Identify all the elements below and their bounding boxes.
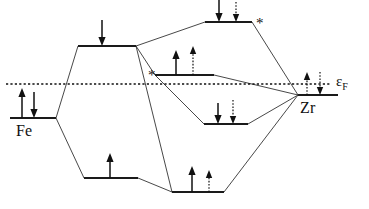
- corr-center-to-mid-right: [155, 75, 204, 124]
- antibonding-star-center: *: [148, 67, 156, 83]
- electron-arrows-lower-left: [106, 153, 113, 178]
- spin-up-arrow-dotted: [206, 170, 212, 192]
- corr-fe-to-lower-left: [56, 118, 84, 178]
- corr-lower-right-to-zr: [224, 95, 298, 192]
- spin-down-arrow-solid: [215, 0, 222, 22]
- electron-arrows-upper-left: [98, 20, 105, 46]
- electron-arrows-center: *: [148, 46, 196, 83]
- antibonding-star-upper-right: *: [256, 15, 264, 31]
- spin-up-arrow-solid: [188, 166, 195, 192]
- spin-down-arrow-solid: [30, 92, 37, 118]
- spin-down-arrow-solid: [98, 20, 105, 46]
- corr-fe-to-upper-left: [56, 46, 78, 118]
- spin-up-arrow-dotted: [190, 46, 196, 75]
- spin-up-arrow-solid: [172, 50, 179, 75]
- spin-up-arrow-solid: [106, 153, 113, 178]
- correlation-lines: [56, 22, 298, 192]
- corr-lower-left-to-lower-right: [138, 178, 172, 192]
- spin-up-arrow-solid: [18, 88, 25, 118]
- fermi-subscript: F: [342, 81, 348, 92]
- electron-arrows-fe-atomic: [18, 88, 37, 118]
- corr-upper-left-to-upper-right: [136, 22, 205, 46]
- spin-down-arrow-dotted: [230, 100, 236, 124]
- energy-level-diagram: * *: [0, 0, 369, 209]
- atom-label-zr: Zr: [300, 99, 316, 117]
- electron-arrows-upper-right: *: [215, 0, 263, 31]
- spin-down-arrow-solid: [214, 103, 221, 124]
- spin-down-arrow-dotted: [233, 2, 239, 22]
- electron-arrows-mid-right: [214, 100, 236, 124]
- atom-label-fe: Fe: [16, 122, 32, 140]
- corr-center-to-zr: [214, 75, 298, 95]
- fermi-level-label: εF: [336, 73, 348, 92]
- electron-arrows-lower-right: [188, 166, 212, 192]
- corr-mid-right-to-zr: [248, 95, 298, 124]
